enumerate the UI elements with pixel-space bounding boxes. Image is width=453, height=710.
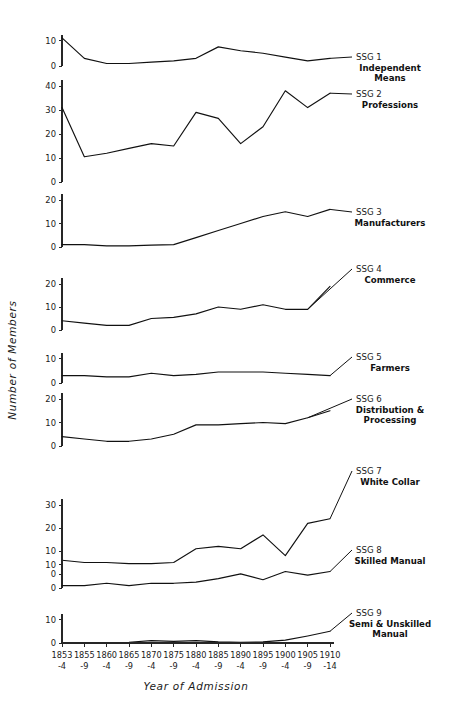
x-tick-label-year: 1890 (230, 650, 251, 660)
legend-code-ssg-6: SSG 6 (356, 394, 382, 404)
x-tick-label-year: 1865 (119, 650, 140, 660)
y-tick-label: 0 (51, 177, 56, 187)
y-tick-label: 10 (45, 354, 56, 364)
legend-label-ssg-6: Distribution & (356, 405, 425, 415)
legend-code-ssg-5: SSG 5 (356, 352, 382, 362)
y-tick-label: 10 (45, 153, 56, 163)
y-tick-label: 20 (45, 279, 56, 289)
legend-label-ssg-3: Manufacturers (355, 218, 426, 228)
legend-label-ssg-7: White Collar (360, 477, 420, 487)
y-tick-label: 10 (45, 302, 56, 312)
x-tick-label-range: -4 (103, 661, 111, 671)
x-tick-label-range: -9 (170, 661, 178, 671)
legend-label-ssg-2: Professions (362, 100, 418, 110)
legend-label-ssg-1: Means (374, 73, 405, 83)
y-tick-label: 0 (51, 441, 56, 451)
x-tick-label-range: -9 (125, 661, 133, 671)
legend-label-ssg-5: Farmers (370, 363, 410, 373)
y-tick-label: 10 (45, 219, 56, 229)
legend-code-ssg-8: SSG 8 (356, 545, 382, 555)
y-tick-label: 20 (45, 394, 56, 404)
y-tick-label: 0 (51, 569, 56, 579)
x-tick-label-year: 1870 (141, 650, 162, 660)
x-tick-label-range: -4 (192, 661, 200, 671)
y-tick-label: 30 (45, 105, 56, 115)
y-tick-label: 0 (51, 242, 56, 252)
x-tick-label-year: 1910 (320, 650, 341, 660)
legend-code-ssg-7: SSG 7 (356, 466, 382, 476)
y-axis-title: Number of Members (6, 300, 18, 420)
y-tick-label: 10 (45, 615, 56, 625)
y-tick-label: 40 (45, 81, 56, 91)
x-tick-label-range: -4 (281, 661, 289, 671)
x-tick-label-range: -4 (147, 661, 155, 671)
y-tick-label: 10 (45, 560, 56, 570)
y-tick-label: 0 (51, 325, 56, 335)
x-tick-label-year: 1885 (208, 650, 229, 660)
legend-code-ssg-2: SSG 2 (356, 89, 382, 99)
x-tick-label-range: -9 (214, 661, 222, 671)
legend-label-ssg-8: Skilled Manual (354, 556, 425, 566)
x-tick-label-year: 1900 (275, 650, 296, 660)
x-tick-label-year: 1875 (163, 650, 184, 660)
legend-code-ssg-3: SSG 3 (356, 207, 382, 217)
legend-label-ssg-6: Processing (364, 415, 417, 425)
legend-code-ssg-9: SSG 9 (356, 608, 382, 618)
x-tick-label-year: 1895 (253, 650, 274, 660)
y-tick-label: 0 (51, 61, 56, 71)
y-tick-label: 10 (45, 36, 56, 46)
x-tick-label-year: 1860 (96, 650, 117, 660)
y-tick-label: 0 (51, 583, 56, 593)
y-tick-label: 0 (51, 378, 56, 388)
y-tick-label: 20 (45, 523, 56, 533)
x-tick-label-range: -9 (304, 661, 312, 671)
x-axis-title: Year of Admission (143, 680, 248, 692)
x-tick-label-year: 1853 (52, 650, 73, 660)
x-tick-label-year: 1855 (74, 650, 95, 660)
x-tick-label-range: -4 (58, 661, 66, 671)
x-tick-label-year: 1880 (186, 650, 207, 660)
legend-code-ssg-1: SSG 1 (356, 52, 382, 62)
y-tick-label: 20 (45, 195, 56, 205)
y-tick-label: 10 (45, 418, 56, 428)
y-tick-label: 10 (45, 546, 56, 556)
chart-figure: 010SSG 1IndependentMeans010203040SSG 2Pr… (0, 0, 453, 710)
x-tick-label-range: -14 (323, 661, 336, 671)
legend-label-ssg-9: Manual (372, 629, 407, 639)
legend-label-ssg-4: Commerce (364, 275, 415, 285)
y-tick-label: 30 (45, 500, 56, 510)
y-tick-label: 20 (45, 129, 56, 139)
x-tick-label-range: -9 (80, 661, 88, 671)
x-tick-label-range: -4 (237, 661, 245, 671)
y-tick-label: 0 (51, 638, 56, 648)
legend-label-ssg-1: Independent (359, 63, 421, 73)
x-tick-label-range: -9 (259, 661, 267, 671)
legend-code-ssg-4: SSG 4 (356, 264, 382, 274)
x-tick-label-year: 1905 (297, 650, 318, 660)
legend-label-ssg-9: Semi & Unskilled (349, 619, 431, 629)
